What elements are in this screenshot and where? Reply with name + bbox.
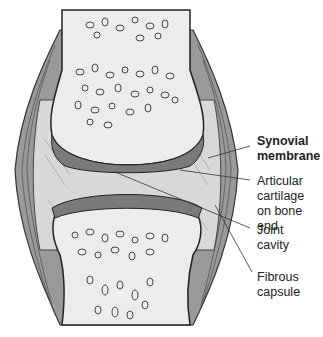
label-fibrous-capsule: Fibrous capsule <box>257 270 300 300</box>
lower-bone <box>53 204 201 325</box>
upper-bone <box>51 10 204 165</box>
label-synovial-membrane: Synovial membrane <box>257 134 320 164</box>
label-joint-cavity: Joint cavity <box>257 223 289 253</box>
